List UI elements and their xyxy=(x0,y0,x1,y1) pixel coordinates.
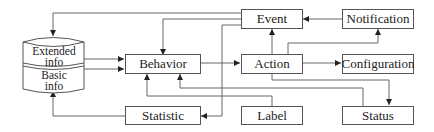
extended-info-label: Extended info xyxy=(23,46,85,68)
edge-action-to-status xyxy=(272,73,389,105)
node-action: Action xyxy=(241,54,303,74)
node-event: Event xyxy=(241,9,303,29)
node-statistic: Statistic xyxy=(125,106,201,125)
edge-label-to-behavior xyxy=(147,74,272,106)
node-configuration: Configuration xyxy=(342,54,414,74)
basic-info-line2: info xyxy=(23,81,85,92)
edge-event-to-statistic xyxy=(201,25,241,116)
node-status: Status xyxy=(342,106,414,125)
edge-action-to-notification xyxy=(288,29,378,55)
node-notification: Notification xyxy=(342,9,414,29)
edge-event-to-extended-info xyxy=(53,13,241,36)
basic-info-label: Basic info xyxy=(23,70,85,92)
node-behavior: Behavior xyxy=(125,54,201,74)
node-label: Label xyxy=(241,106,303,125)
edge-event-to-behavior xyxy=(163,19,241,55)
edge-statistic-to-basic-info xyxy=(53,91,125,116)
extended-info-line2: info xyxy=(23,57,85,68)
